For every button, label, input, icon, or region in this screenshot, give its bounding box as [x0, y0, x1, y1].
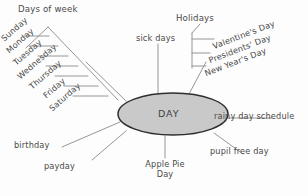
apple-pie-day-line-2: Day	[118, 170, 212, 180]
spoke-payday	[92, 131, 126, 160]
diagram-canvas: DAY Days of week Sunday Monday Tuesday W…	[0, 0, 308, 196]
spoke-days-of-week	[86, 62, 126, 101]
spoke-label-apple-pie-day: Apple Pie Day	[118, 160, 212, 179]
holidays-top-leader	[192, 24, 200, 33]
group-heading-days-of-week: Days of week	[18, 4, 78, 14]
spoke-label-payday: payday	[44, 162, 75, 172]
spoke-label-rainy-day-schedule: rainy day schedule	[214, 112, 294, 122]
spoke-label-sick-days: sick days	[136, 34, 175, 44]
center-node-label: DAY	[158, 108, 179, 119]
group-heading-holidays: Holidays	[176, 13, 214, 23]
spoke-label-pupil-free-day: pupil free day	[210, 147, 269, 157]
spoke-holidays	[188, 62, 206, 96]
spoke-label-birthday: birthday	[14, 141, 50, 151]
